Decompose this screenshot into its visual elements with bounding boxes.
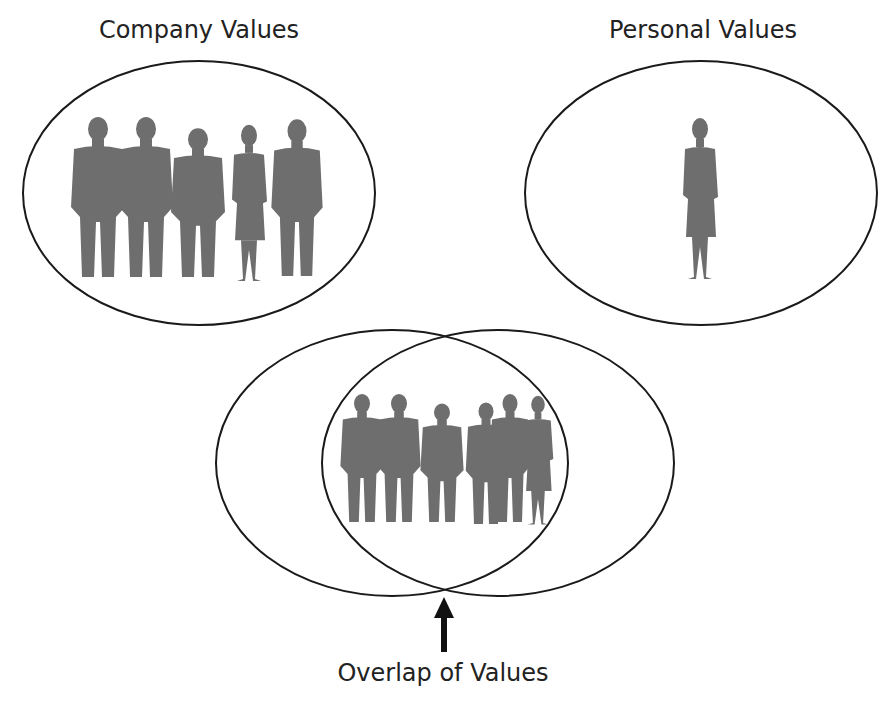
values-diagram [0,0,895,711]
company-group-icon [71,117,323,281]
arrow-up-icon [434,597,454,652]
person-icon [683,118,718,279]
overlap-group-icon [340,394,553,525]
